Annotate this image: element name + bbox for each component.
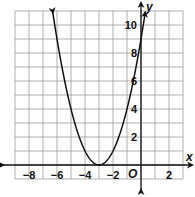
axes (3, 3, 192, 190)
x-tick-label: −2 (107, 169, 120, 181)
tick-labels: −8−6−4−22246810 (23, 19, 172, 181)
grid (15, 11, 183, 179)
y-tick-label: 4 (131, 103, 138, 115)
x-tick-label: 2 (166, 169, 172, 181)
y-axis-label: y (145, 0, 154, 14)
x-axis-label: x (185, 150, 194, 164)
y-tick-label: 2 (131, 131, 137, 143)
parabola-chart: −8−6−4−22246810 x y O (0, 0, 195, 197)
x-tick-label: −4 (79, 169, 92, 181)
x-tick-label: −8 (23, 169, 36, 181)
x-tick-label: −6 (51, 169, 64, 181)
origin-label: O (128, 167, 138, 181)
y-tick-label: 8 (131, 47, 137, 59)
y-tick-label: 10 (125, 19, 137, 31)
